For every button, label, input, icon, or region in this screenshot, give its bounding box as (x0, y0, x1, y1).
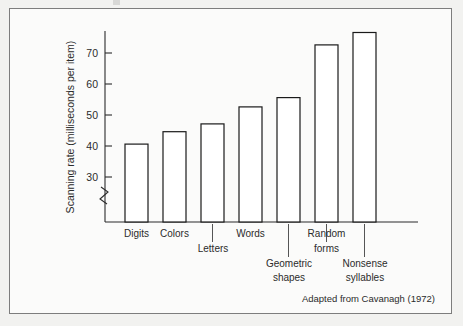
tick-label-50: 50 (86, 109, 98, 121)
tick-label-60: 60 (86, 78, 98, 90)
category-label-colors: Colors (160, 228, 189, 239)
bar-nonsense-syllables (353, 33, 376, 223)
bar-words (239, 107, 262, 222)
bar-chart: 70 60 50 40 30 Scanning rate (millisecon… (10, 9, 453, 315)
scan-artifact-mark (113, 0, 120, 5)
category-label-letters: Letters (198, 243, 229, 254)
category-label-geometric-line1: Geometric (266, 258, 312, 269)
category-label-nonsense-line1: Nonsense (342, 258, 387, 269)
bar-colors (163, 132, 186, 222)
category-label-digits: Digits (124, 228, 149, 239)
tick-label-30: 30 (86, 171, 98, 183)
category-label-words: Words (236, 228, 265, 239)
category-label-random-forms-line1: Random (308, 228, 346, 239)
bar-geometric-shapes (277, 98, 300, 222)
y-axis-title: Scanning rate (milliseconds per item) (64, 41, 76, 214)
bar-random-forms (315, 45, 338, 222)
chart-svg: 70 60 50 40 30 Scanning rate (millisecon… (10, 9, 453, 315)
tick-label-40: 40 (86, 140, 98, 152)
bar-letters (201, 124, 224, 222)
chart-credit: Adapted from Cavanagh (1972) (302, 293, 435, 304)
category-label-nonsense-line2: syllables (346, 272, 384, 283)
tick-label-70: 70 (86, 47, 98, 59)
axis-break-icon (100, 187, 108, 204)
bar-digits (125, 144, 148, 222)
category-label-geometric-line2: shapes (273, 272, 305, 283)
category-label-random-forms-line2: forms (314, 243, 339, 254)
figure-frame: 70 60 50 40 30 Scanning rate (millisecon… (9, 8, 452, 314)
